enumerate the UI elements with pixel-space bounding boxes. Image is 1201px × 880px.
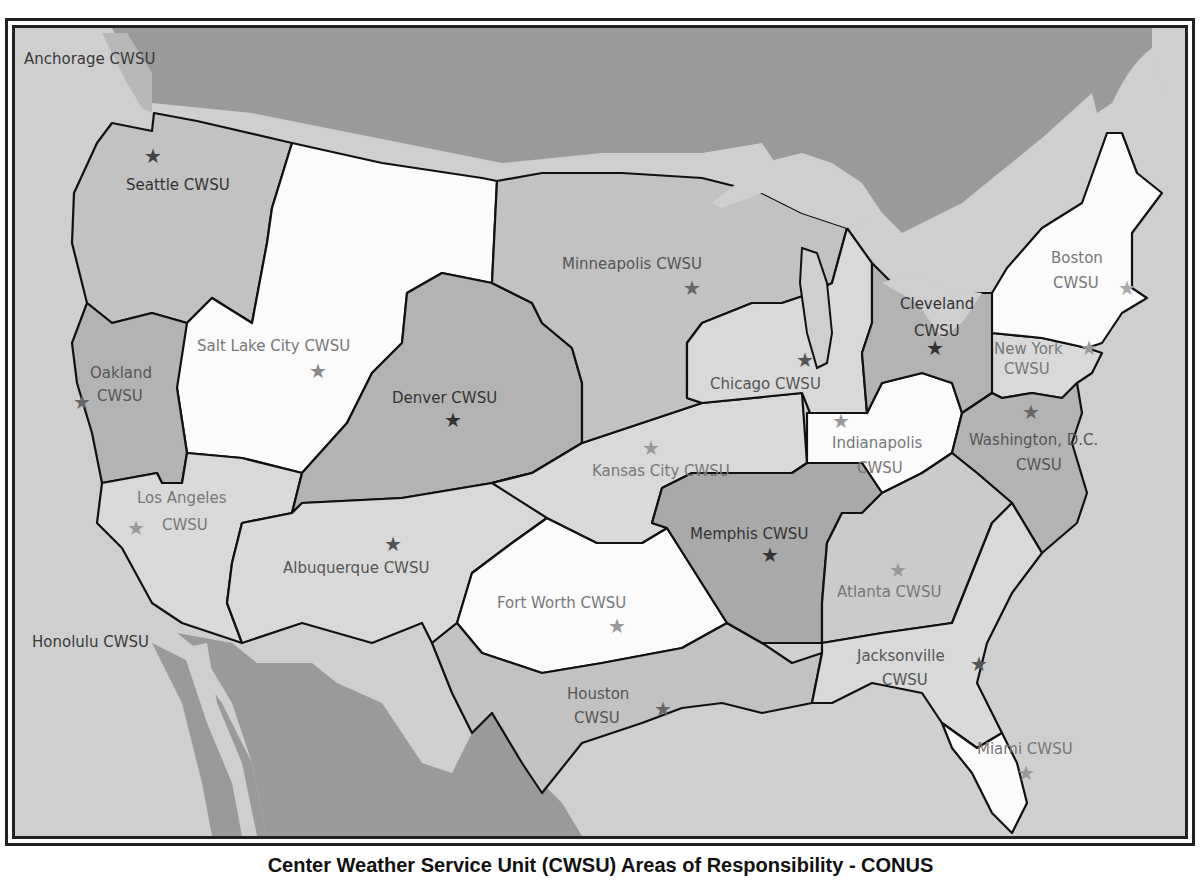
minneapolis-label: Minneapolis CWSU xyxy=(562,255,702,273)
los-angeles-star-icon: ★ xyxy=(127,516,145,540)
honolulu-label: Honolulu CWSU xyxy=(32,633,149,651)
albuquerque-label: Albuquerque CWSU xyxy=(283,559,429,577)
atlanta-star-icon: ★ xyxy=(889,558,907,582)
cwsu-map: Anchorage CWSU Honolulu CWSU Seattle CWS… xyxy=(15,28,1185,836)
map-inner-frame: Anchorage CWSU Honolulu CWSU Seattle CWS… xyxy=(12,25,1188,839)
new-york-label: New York xyxy=(994,340,1063,358)
oakland-label-2: CWSU xyxy=(97,387,143,405)
chicago-star-icon: ★ xyxy=(796,348,814,372)
washington-label-2: CWSU xyxy=(1016,456,1062,474)
washington-star-icon: ★ xyxy=(1022,400,1040,424)
cleveland-star-icon: ★ xyxy=(926,336,944,360)
seattle-label: Seattle CWSU xyxy=(126,176,230,194)
indianapolis-label: Indianapolis xyxy=(832,434,923,452)
memphis-star-icon: ★ xyxy=(761,543,779,567)
los-angeles-label-2: CWSU xyxy=(162,516,208,534)
salt-lake-city-label: Salt Lake City CWSU xyxy=(197,337,350,355)
albuquerque-star-icon: ★ xyxy=(384,532,402,556)
chicago-label: Chicago CWSU xyxy=(710,375,821,393)
denver-label: Denver CWSU xyxy=(392,389,497,407)
jacksonville-star-icon: ★ xyxy=(970,652,988,676)
new-york-star-icon: ★ xyxy=(1080,336,1098,360)
memphis-label: Memphis CWSU xyxy=(690,525,808,543)
map-caption: Center Weather Service Unit (CWSU) Areas… xyxy=(0,854,1201,880)
kansas-city-star-icon: ★ xyxy=(642,436,660,460)
fort-worth-label: Fort Worth CWSU xyxy=(497,594,626,612)
boston-label-2: CWSU xyxy=(1053,274,1099,292)
jacksonville-label: Jacksonville xyxy=(856,647,945,665)
los-angeles-label: Los Angeles xyxy=(137,489,227,507)
fort-worth-star-icon: ★ xyxy=(608,614,626,638)
boston-star-icon: ★ xyxy=(1118,276,1136,300)
cleveland-label: Cleveland xyxy=(900,295,974,313)
houston-label-2: CWSU xyxy=(574,709,620,727)
houston-label: Houston xyxy=(567,685,629,703)
denver-star-icon: ★ xyxy=(444,408,462,432)
minneapolis-star-icon: ★ xyxy=(683,276,701,300)
new-york-label-2: CWSU xyxy=(1004,360,1050,378)
oakland-star-icon: ★ xyxy=(73,390,91,414)
salt-lake-city-star-icon: ★ xyxy=(309,359,327,383)
atlanta-label: Atlanta CWSU xyxy=(837,583,941,601)
map-outer-frame: Anchorage CWSU Honolulu CWSU Seattle CWS… xyxy=(5,18,1195,846)
boston-label: Boston xyxy=(1051,249,1103,267)
jacksonville-label-2: CWSU xyxy=(882,671,928,689)
indianapolis-label-2: CWSU xyxy=(857,459,903,477)
anchorage-label: Anchorage CWSU xyxy=(24,50,155,68)
miami-star-icon: ★ xyxy=(1017,761,1035,785)
seattle-star-icon: ★ xyxy=(144,144,162,168)
oakland-label: Oakland xyxy=(90,364,152,382)
indianapolis-star-icon: ★ xyxy=(832,409,850,433)
washington-label: Washington, D.C. xyxy=(969,431,1098,449)
kansas-city-label: Kansas City CWSU xyxy=(592,462,730,480)
miami-label: Miami CWSU xyxy=(977,740,1073,758)
houston-star-icon: ★ xyxy=(654,697,672,721)
